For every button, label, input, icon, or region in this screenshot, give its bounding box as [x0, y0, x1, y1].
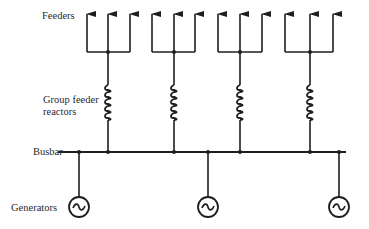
- feeders-label: Feeders: [42, 10, 75, 22]
- junction-dot: [337, 150, 341, 154]
- reactors-label-line1: Group feeder: [43, 94, 99, 106]
- junction-dot: [238, 150, 242, 154]
- junction-dot: [77, 150, 81, 154]
- junction-dot: [172, 150, 176, 154]
- busbar-label: Busbar: [33, 146, 63, 158]
- reactor-coil-icon: [237, 85, 243, 120]
- reactor-coil-icon: [105, 85, 111, 120]
- ac-wave-icon: [73, 204, 85, 210]
- ac-wave-icon: [333, 204, 345, 210]
- junction-dot: [308, 150, 312, 154]
- generators-label: Generators: [11, 202, 57, 214]
- junction-dot: [106, 150, 110, 154]
- reactor-coil-icon: [171, 85, 177, 120]
- junction-dot: [206, 150, 210, 154]
- reactor-coil-icon: [307, 85, 313, 120]
- ac-wave-icon: [202, 204, 214, 210]
- reactors-label-line2: reactors: [43, 106, 76, 118]
